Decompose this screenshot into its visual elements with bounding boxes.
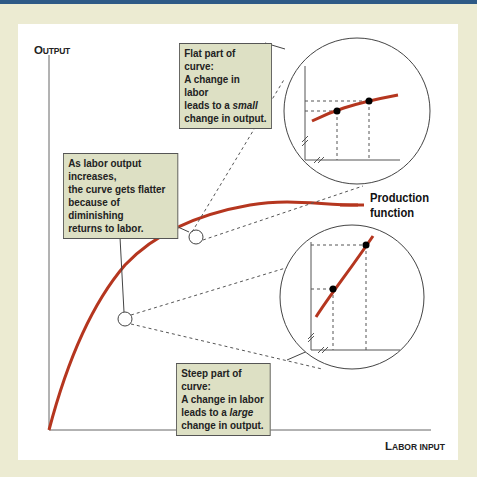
diminishing-returns-callout: As labor output increases, the curve get… bbox=[63, 153, 178, 239]
steep-magnifier bbox=[280, 225, 424, 369]
production-function-label: Production function bbox=[370, 190, 429, 220]
x-axis-label: LABOR INPUT bbox=[385, 436, 445, 454]
flat-point-marker bbox=[189, 230, 203, 244]
flat-magnifier bbox=[284, 38, 430, 184]
y-axis-label: OUTPUT bbox=[34, 44, 70, 56]
flat-callout: Flat part of curve: A change in labor le… bbox=[179, 43, 272, 129]
steep-callout: Steep part of curve: A change in labor l… bbox=[176, 363, 271, 436]
steep-point-marker bbox=[118, 312, 132, 326]
